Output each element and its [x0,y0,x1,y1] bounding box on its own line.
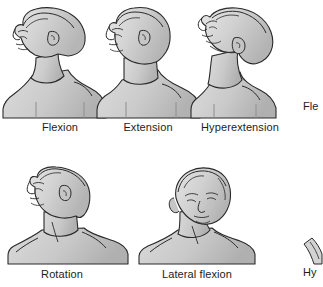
rotation-body [8,167,128,264]
caption-flexion: Flexion [10,121,110,134]
caption-hyperextension: Hyperextension [180,121,300,134]
cropped-caption-hyperextension: Hy [303,266,323,279]
lateral-flexion-body [139,168,255,264]
cropped-caption-flexion: Fle [303,100,323,113]
caption-lateral-flexion: Lateral flexion [147,268,247,281]
figure-rotation [8,168,128,264]
caption-rotation: Rotation [12,268,112,281]
extension-body [97,8,200,118]
neck-range-of-motion-plate: Flexion [0,0,323,287]
flexion-body [3,8,106,118]
cropped-figure-hyperextension [300,238,323,264]
figure-hyperextension [190,6,312,118]
figure-lateral-flexion [130,168,255,264]
hyperextension-body [191,8,276,118]
